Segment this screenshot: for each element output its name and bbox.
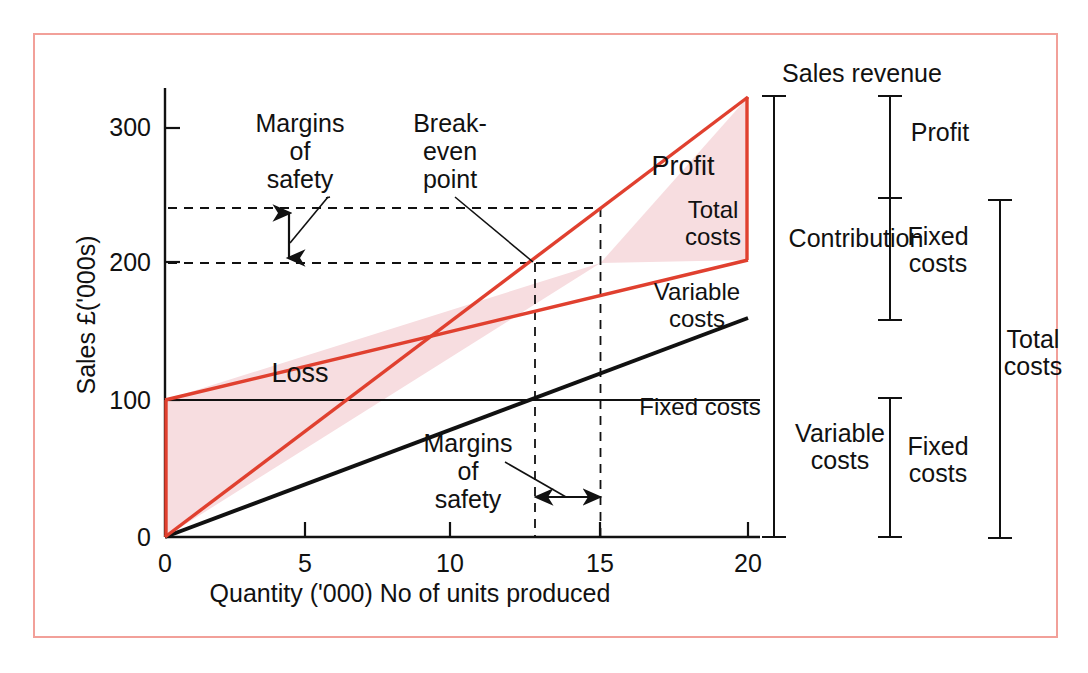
- total-costs-curve-label-line1: Total: [688, 196, 739, 223]
- fixed-costs-line-label: Fixed costs: [639, 393, 760, 420]
- variable-costs-curve-label-line1: Variable: [654, 278, 740, 305]
- y-tick-label-200: 200: [109, 248, 151, 276]
- bracket-label-contribution: Contribution: [789, 224, 924, 252]
- page-root: 300 200 100 0 0 5 10 15 20 Sales £('000s…: [0, 0, 1088, 673]
- bracket-label-fixed-costs-lower-line1: Fixed: [907, 432, 968, 460]
- y-tick-label-300: 300: [109, 113, 151, 141]
- margins-of-safety-top-line1: Margins: [256, 109, 345, 137]
- break-even-label-line2: even: [423, 137, 477, 165]
- bracket-heading-sales-revenue: Sales revenue: [782, 59, 942, 87]
- margins-of-safety-top-annotation: Margins of safety: [256, 109, 345, 258]
- y-tick-label-0: 0: [137, 523, 151, 551]
- y-axis-label: Sales £('000s): [72, 235, 100, 394]
- bracket-column-sales-revenue: [762, 96, 786, 537]
- y-axis-ticks: [165, 128, 180, 400]
- bracket-label-variable-costs-line1: Variable: [795, 419, 885, 447]
- bracket-label-total-costs-line2: costs: [1004, 352, 1062, 380]
- bracket-label-fixed-costs-lower-line2: costs: [909, 459, 967, 487]
- x-axis-label: Quantity ('000) No of units produced: [210, 579, 611, 607]
- variable-costs-curve-label-line2: costs: [669, 305, 725, 332]
- break-even-label-line1: Break-: [413, 109, 487, 137]
- profit-region-label: Profit: [651, 151, 715, 181]
- margins-of-safety-top-line2: of: [290, 137, 311, 165]
- bracket-label-variable-costs-line2: costs: [811, 446, 869, 474]
- margins-of-safety-bottom-line1: Margins: [424, 429, 513, 457]
- x-tick-label-20: 20: [734, 549, 762, 577]
- bracket-label-total-costs-line1: Total: [1007, 325, 1060, 353]
- x-tick-label-10: 10: [436, 549, 464, 577]
- x-axis-ticks: [305, 522, 748, 537]
- break-even-chart: 300 200 100 0 0 5 10 15 20 Sales £('000s…: [0, 0, 1088, 673]
- break-even-point-annotation: Break- even point: [413, 109, 533, 262]
- x-tick-label-5: 5: [298, 549, 312, 577]
- margins-of-safety-bottom-annotation: Margins of safety: [424, 429, 599, 513]
- break-even-label-line3: point: [423, 165, 477, 193]
- break-even-leader-line: [455, 197, 533, 262]
- margins-of-safety-top-line3: safety: [267, 165, 334, 193]
- y-tick-label-100: 100: [109, 386, 151, 414]
- loss-region-label: Loss: [271, 358, 328, 388]
- total-costs-curve-label-line2: costs: [685, 223, 741, 250]
- bracket-label-fixed-costs-upper-line1: Fixed: [907, 222, 968, 250]
- bracket-label-profit: Profit: [911, 118, 969, 146]
- x-tick-label-15: 15: [586, 549, 614, 577]
- margins-of-safety-bottom-line2: of: [458, 457, 479, 485]
- x-tick-label-0: 0: [158, 549, 172, 577]
- margins-of-safety-bottom-line3: safety: [435, 485, 502, 513]
- bracket-label-fixed-costs-upper-line2: costs: [909, 249, 967, 277]
- margins-of-safety-top-leader: [290, 197, 328, 243]
- bracket-column-contribution-breakdown: [878, 96, 902, 320]
